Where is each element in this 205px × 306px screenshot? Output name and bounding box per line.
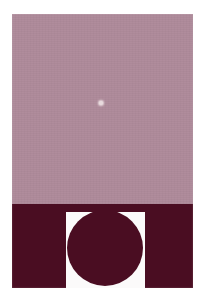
white-notch: [66, 212, 145, 288]
scanned-photographic-plate: [12, 14, 193, 288]
concentric-rings: [12, 14, 193, 204]
lower-dark-band: [12, 204, 193, 288]
diffraction-pattern-panel: [12, 14, 193, 204]
figure-canvas: [0, 0, 205, 306]
dark-circular-disc: [67, 212, 143, 286]
